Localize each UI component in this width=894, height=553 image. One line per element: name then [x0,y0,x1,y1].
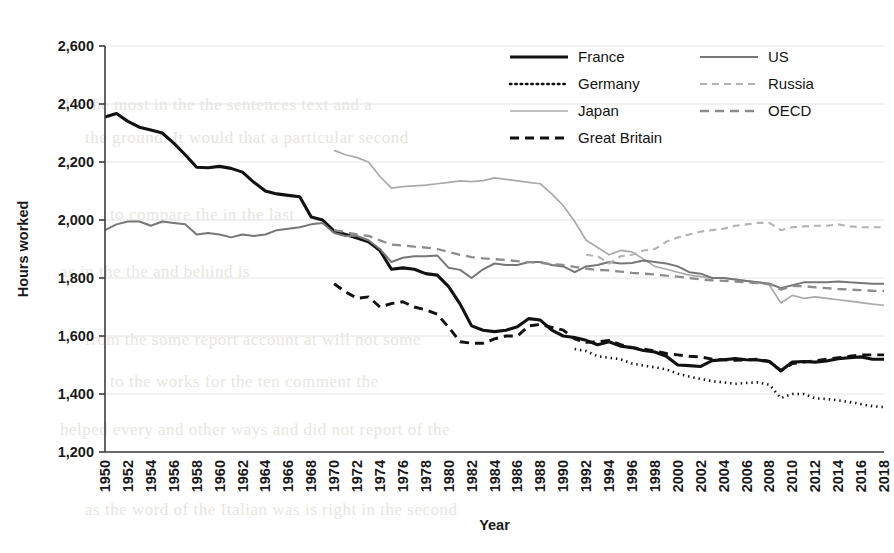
series-line-russia [586,223,884,264]
x-tick-label: 1990 [555,460,571,492]
y-tick-label: 1,600 [58,328,94,344]
x-tick-label: 1988 [532,460,548,492]
y-tick-label: 1,800 [58,270,94,286]
series-line-france [105,114,884,371]
legend-label-us[interactable]: US [768,48,789,65]
x-tick-label: 1994 [601,460,617,492]
chart-canvas: 2,6002,4002,2002,0001,8001,6001,4001,200… [0,0,894,553]
axes [99,46,884,452]
legend-label-oecd[interactable]: OECD [768,102,812,119]
x-tick-label: 1952 [120,460,136,492]
y-tick-label: 2,200 [58,154,94,170]
x-tick-label: 2000 [670,460,686,492]
x-tick-label: 1966 [280,460,296,492]
x-tick-label: 1974 [372,460,388,492]
legend: FranceGermanyJapanGreat BritainUSRussiaO… [510,48,815,146]
x-tick-label: 1972 [349,460,365,492]
x-tick-label: 2012 [807,460,823,492]
y-tick-label: 2,400 [58,96,94,112]
x-tick-label: 2002 [693,460,709,492]
y-tick-label: 2,000 [58,212,94,228]
x-tick-label: 2014 [830,460,846,492]
y-tick-label: 1,400 [58,386,94,402]
x-tick-label: 1978 [418,460,434,492]
x-tick-label: 2016 [853,460,869,492]
x-tick-label: 1970 [326,460,342,492]
x-tick-label: 1980 [441,460,457,492]
hours-worked-line-chart: the the most in the the sentences text a… [0,0,894,553]
y-axis-title: Hours worked [15,201,31,298]
x-tick-label: 2006 [739,460,755,492]
legend-label-russia[interactable]: Russia [768,75,815,92]
x-tick-label: 1950 [97,460,113,492]
x-tick-label: 2008 [761,460,777,492]
legend-label-france[interactable]: France [578,48,625,65]
legend-label-great-britain[interactable]: Great Britain [578,129,662,146]
x-tick-label: 2018 [876,460,892,492]
x-tick-label: 1954 [143,460,159,492]
x-tick-label: 1962 [235,460,251,492]
x-tick-label: 1992 [578,460,594,492]
x-tick-labels: 1950195219541956195819601962196419661968… [97,460,892,492]
x-tick-label: 1964 [257,460,273,492]
x-tick-label: 2010 [784,460,800,492]
y-tick-labels: 2,6002,4002,2002,0001,8001,6001,4001,200 [58,38,94,460]
x-tick-label: 1986 [509,460,525,492]
legend-label-germany[interactable]: Germany [578,75,640,92]
x-tick-label: 1956 [166,460,182,492]
x-tick-label: 1976 [395,460,411,492]
x-tick-label: 2004 [716,460,732,492]
x-tick-label: 1996 [624,460,640,492]
x-tick-label: 1998 [647,460,663,492]
y-tick-label: 1,200 [58,444,94,460]
x-axis-title: Year [479,517,510,533]
legend-label-japan[interactable]: Japan [578,102,619,119]
x-tick-label: 1968 [303,460,319,492]
x-tick-label: 1984 [487,460,503,492]
x-tick-label: 1958 [189,460,205,492]
x-tick-label: 1982 [464,460,480,492]
y-tick-label: 2,600 [58,38,94,54]
series-layer [105,114,884,407]
x-tick-label: 1960 [212,460,228,492]
